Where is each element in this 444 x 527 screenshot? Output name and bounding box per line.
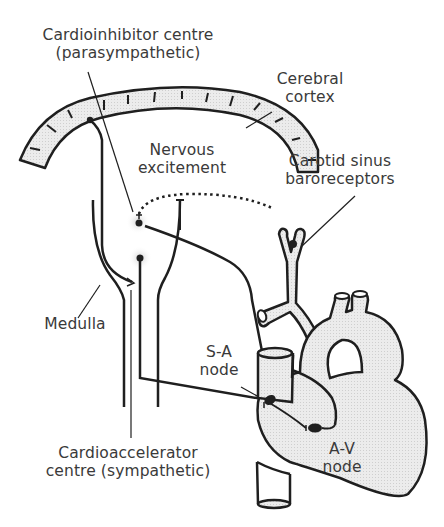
label-cerebral-cortex-line2: cortex <box>260 88 360 106</box>
label-cardioinhibitor-centre: Cardioinhibitor centre (parasympathetic) <box>28 26 228 62</box>
label-cardioinhibitor-line2: (parasympathetic) <box>28 44 228 62</box>
label-cardioaccelerator-line2: centre (sympathetic) <box>28 462 228 480</box>
label-av-node-line1: A-V <box>312 440 372 458</box>
label-medulla: Medulla <box>30 315 120 333</box>
label-sa-node-line1: S-A <box>194 343 244 361</box>
label-medulla-line1: Medulla <box>30 315 120 333</box>
label-cerebral-cortex: Cerebral cortex <box>260 70 360 106</box>
carotid-artery <box>256 229 318 340</box>
baroreceptor-afferent-dotted <box>139 194 272 214</box>
label-carotid-sinus-line2: baroreceptors <box>270 170 410 188</box>
label-carotid-sinus-line1: Carotid sinus <box>270 152 410 170</box>
label-cardioaccelerator-centre: Cardioaccelerator centre (sympathetic) <box>28 444 228 480</box>
label-cardioaccelerator-line1: Cardioaccelerator <box>28 444 228 462</box>
label-nervous-excitement: Nervous excitement <box>122 141 242 177</box>
label-carotid-sinus: Carotid sinus baroreceptors <box>270 152 410 188</box>
label-sa-node-line2: node <box>194 361 244 379</box>
label-cardioinhibitor-line1: Cardioinhibitor centre <box>28 26 228 44</box>
label-nervous-excitement-line2: excitement <box>122 159 242 177</box>
label-av-node: A-V node <box>312 440 372 476</box>
label-nervous-excitement-line1: Nervous <box>122 141 242 159</box>
label-av-node-line2: node <box>312 458 372 476</box>
label-cerebral-cortex-line1: Cerebral <box>260 70 360 88</box>
label-sa-node: S-A node <box>194 343 244 379</box>
